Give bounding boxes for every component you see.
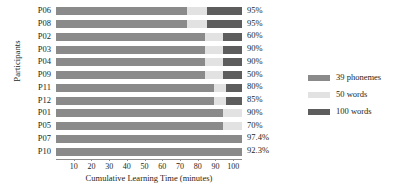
value-label: 70% (247, 120, 263, 131)
bar-row: P0190% (56, 109, 242, 117)
x-tick-label: 100 (227, 162, 239, 171)
bar-row: P0570% (56, 122, 242, 130)
bar-segment (214, 97, 226, 105)
category-label: P12 (38, 95, 51, 106)
value-label: 85% (247, 94, 263, 105)
bar-segment (207, 20, 242, 28)
category-label: P03 (38, 44, 51, 55)
stacked-bar (56, 46, 242, 54)
legend-label: 100 words (336, 106, 372, 117)
bar-row: P0490% (56, 58, 242, 66)
bar-segment (56, 109, 223, 117)
category-label: P02 (38, 31, 51, 42)
x-tick-label: 20 (87, 162, 95, 171)
x-tick (109, 159, 110, 161)
bar-segment (226, 97, 242, 105)
category-label: P08 (38, 18, 51, 29)
legend-label: 50 words (336, 89, 367, 100)
stacked-bar (56, 71, 242, 79)
bar-row: P0390% (56, 46, 242, 54)
stacked-bar (56, 20, 242, 28)
bar-segment (56, 46, 205, 54)
x-tick-label: 30 (105, 162, 113, 171)
bar-segment (205, 71, 223, 79)
legend-item[interactable]: 39 phonemes (308, 71, 404, 84)
legend-label: 39 phonemes (336, 72, 381, 83)
category-label: P05 (38, 120, 51, 131)
x-tick (127, 159, 128, 161)
bar-segment (205, 33, 223, 41)
x-tick-label: 10 (70, 162, 78, 171)
bar-segment (223, 33, 242, 41)
stacked-bar (56, 122, 242, 130)
x-tick (74, 159, 75, 161)
bar-row: P0695% (56, 7, 242, 15)
stacked-bar (56, 84, 242, 92)
stacked-bar (56, 58, 242, 66)
bar-segment (205, 58, 223, 66)
bar-segment (56, 84, 214, 92)
x-tick-label: 80 (194, 162, 202, 171)
bar-segment (187, 20, 206, 28)
bar-segment (223, 71, 242, 79)
bar-segment (56, 58, 205, 66)
category-label: P01 (38, 107, 51, 118)
x-tick (215, 159, 216, 161)
bar-segment (214, 84, 226, 92)
value-label: 95% (247, 5, 263, 16)
stacked-bar (56, 33, 242, 41)
stacked-bar (56, 97, 242, 105)
value-label: 97.4% (247, 132, 269, 143)
legend-item[interactable]: 50 words (308, 88, 404, 101)
chart-legend: 39 phonemes50 words100 words (308, 71, 404, 122)
bar-segment (56, 148, 242, 156)
bar-segment (56, 97, 214, 105)
plot-area: P0695%P0895%P0260%P0390%P0490%P0950%P118… (56, 6, 242, 159)
y-axis-title: Participants (12, 16, 22, 106)
x-tick (233, 159, 234, 161)
stacked-bar (56, 7, 242, 15)
bar-row: P1285% (56, 97, 242, 105)
value-label: 60% (247, 30, 263, 41)
bar-segment (223, 58, 242, 66)
bar-segment (56, 71, 205, 79)
value-label: 90% (247, 43, 263, 54)
bar-segment (207, 7, 242, 15)
bar-row: P0950% (56, 71, 242, 79)
value-label: 50% (247, 69, 263, 80)
x-tick (198, 159, 199, 161)
value-label: 90% (247, 56, 263, 67)
x-tick (91, 159, 92, 161)
category-label: P06 (38, 5, 51, 16)
x-tick (162, 159, 163, 161)
stacked-bar (56, 109, 242, 117)
legend-swatch-icon (308, 92, 330, 98)
category-label: P04 (38, 56, 51, 67)
bar-row: P0260% (56, 33, 242, 41)
bar-segment (56, 33, 205, 41)
value-label: 95% (247, 18, 263, 29)
legend-swatch-icon (308, 109, 330, 115)
bar-segment (187, 7, 206, 15)
bar-segment (223, 109, 242, 117)
x-axis-title: Cumulative Learning Time (minutes) (56, 173, 242, 183)
legend-item[interactable]: 100 words (308, 105, 404, 118)
bar-segment (226, 84, 242, 92)
bar-segment (56, 20, 187, 28)
bar-row: P1180% (56, 84, 242, 92)
bar-rows: P0695%P0895%P0260%P0390%P0490%P0950%P118… (56, 6, 242, 159)
value-label: 92.3% (247, 145, 269, 156)
x-tick-label: 40 (123, 162, 131, 171)
bar-segment (56, 7, 187, 15)
stacked-bar (56, 135, 242, 143)
x-tick (180, 159, 181, 161)
bar-row: P0895% (56, 20, 242, 28)
value-label: 80% (247, 81, 263, 92)
bar-segment (56, 135, 242, 143)
stacked-bar-chart: Participants P0695%P0895%P0260%P0390%P04… (0, 0, 405, 190)
x-tick-label: 90 (211, 162, 219, 171)
legend-swatch-icon (308, 75, 330, 81)
bar-row: P1092.3% (56, 148, 242, 156)
category-label: P07 (38, 133, 51, 144)
stacked-bar (56, 148, 242, 156)
